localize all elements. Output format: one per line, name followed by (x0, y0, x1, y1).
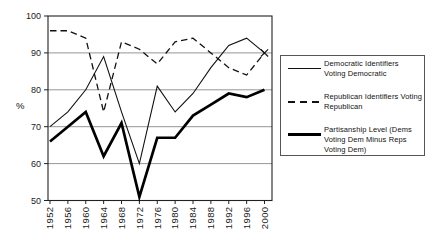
dashed-line-sample (288, 101, 321, 103)
series-democratic-line (50, 38, 265, 163)
x-axis-year-label: 1968 (116, 207, 127, 230)
x-axis-year-label: 1980 (169, 207, 180, 230)
legend: Democratic Identifiers Voting Democratic… (280, 55, 425, 156)
plot-border (48, 16, 272, 201)
y-axis-value-label: 60 (31, 159, 41, 169)
y-axis-value-label: 90 (31, 48, 41, 58)
legend-item-democratic: Democratic Identifiers Voting Democratic (281, 59, 424, 79)
x-axis-year-label: 1996 (241, 206, 252, 229)
x-axis-year-label: 1952 (44, 207, 55, 230)
legend-label-democratic: Democratic Identifiers Voting Democratic (324, 59, 422, 79)
legend-item-partisanship: Partisanship Level (Dems Voting Dem Minu… (281, 125, 424, 155)
y-axis-value-label: 80 (31, 85, 41, 95)
y-axis-value-label: 70 (31, 122, 41, 132)
x-axis-year-label: 1992 (223, 207, 234, 230)
series-partisanship-line (50, 90, 265, 197)
thin-solid-line-sample (288, 68, 321, 69)
x-axis-year-label: 1984 (187, 207, 198, 230)
x-axis-year-label: 1988 (205, 207, 216, 230)
legend-item-republican: Republican Identifiers Voting Republican (281, 92, 424, 112)
x-axis-year-label: 1956 (62, 207, 73, 230)
x-axis-year-label: 1964 (98, 207, 109, 230)
x-axis-year-label: 1960 (80, 207, 91, 230)
thick-solid-line-sample (288, 133, 321, 136)
x-axis-year-label: 1972 (134, 207, 145, 230)
x-axis-year-label: 2000 (259, 207, 270, 230)
legend-label-republican: Republican Identifiers Voting Republican (324, 92, 422, 112)
y-axis-value-label: 50 (31, 196, 41, 206)
y-axis-value-label: 100 (26, 11, 41, 21)
series-republican-line (50, 31, 265, 112)
chart-container: 1009080706050195219561960196419681972197… (0, 0, 440, 241)
y-axis-title: % (16, 100, 24, 111)
legend-label-partisanship: Partisanship Level (Dems Voting Dem Minu… (324, 125, 422, 155)
x-axis-year-label: 1976 (152, 207, 163, 230)
